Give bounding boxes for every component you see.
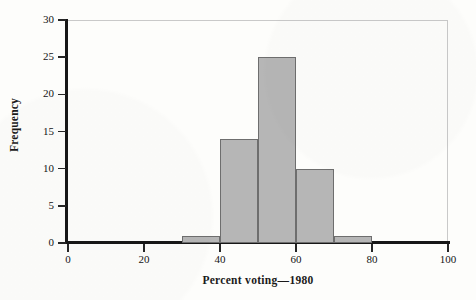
x-axis-tick [295, 244, 297, 252]
x-axis-tick-label: 0 [48, 254, 88, 265]
x-axis-tick [67, 244, 69, 252]
y-axis-tick-label: 15 [14, 126, 54, 137]
y-axis-tick [58, 168, 66, 170]
y-axis-tick-label: 10 [14, 163, 54, 174]
y-axis-tick-label: 5 [14, 200, 54, 211]
y-axis-tick-label: 25 [14, 51, 54, 62]
y-axis-tick-label: 30 [14, 14, 54, 25]
histogram-bar [296, 169, 334, 243]
x-axis-tick-label: 80 [352, 254, 392, 265]
histogram-bar [182, 236, 220, 243]
x-axis-tick [371, 244, 373, 252]
x-axis-tick-label: 40 [200, 254, 240, 265]
histogram-bar [258, 57, 296, 243]
x-axis-tick [447, 244, 449, 252]
y-axis-tick [58, 242, 66, 244]
x-axis-tick-label: 100 [428, 254, 468, 265]
y-axis-tick [58, 205, 66, 207]
y-axis-tick-label: 0 [14, 237, 54, 248]
x-axis-tick-label: 20 [124, 254, 164, 265]
histogram-bar [334, 236, 372, 243]
histogram-figure: Frequency 051015202530 020406080100 Perc… [0, 0, 476, 300]
x-axis-tick [219, 244, 221, 252]
histogram-bar [220, 139, 258, 243]
y-axis-tick [58, 19, 66, 21]
x-axis-title: Percent voting—1980 [68, 274, 448, 286]
y-axis-tick [58, 56, 66, 58]
y-axis-tick [58, 131, 66, 133]
x-axis-tick-label: 60 [276, 254, 316, 265]
x-axis-tick [143, 244, 145, 252]
y-axis-tick [58, 94, 66, 96]
y-axis-tick-label: 20 [14, 88, 54, 99]
